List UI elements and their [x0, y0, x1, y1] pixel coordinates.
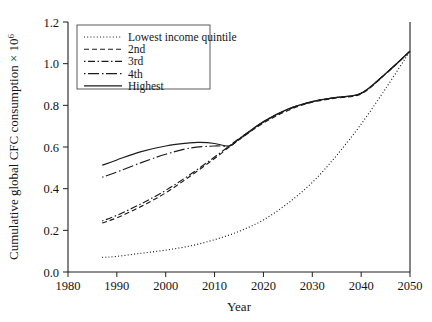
x-tick-label: 2040 [349, 279, 374, 293]
y-axis-label: Cumulative global CFC consumption × 106 [6, 34, 22, 260]
x-tick-label: 2050 [398, 279, 423, 293]
chart-background [0, 0, 432, 322]
x-axis-label: Year [227, 299, 252, 314]
x-tick-label: 2000 [153, 279, 178, 293]
y-tick-label: 0.4 [43, 182, 59, 196]
y-tick-label: 0.0 [43, 266, 59, 280]
cfc-consumption-line-chart: 0.00.20.40.60.81.01.2 198019902000201020… [0, 0, 432, 322]
x-tick-label: 1990 [104, 279, 129, 293]
y-tick-label: 0.6 [43, 141, 59, 155]
y-tick-label: 0.2 [43, 224, 59, 238]
legend-label: Highest [128, 80, 165, 93]
x-tick-label: 2030 [300, 279, 325, 293]
y-tick-label: 0.8 [43, 99, 59, 113]
legend-label: 3rd [128, 55, 144, 67]
y-tick-label: 1.0 [43, 57, 59, 71]
legend-label: 2nd [128, 43, 146, 55]
legend-label: 4th [128, 68, 143, 80]
x-tick-label: 2010 [202, 279, 227, 293]
x-tick-label: 1980 [56, 279, 81, 293]
legend-label: Lowest income quintile [128, 31, 237, 44]
y-tick-label: 1.2 [43, 16, 59, 30]
chart-figure: 0.00.20.40.60.81.01.2 198019902000201020… [0, 0, 432, 322]
x-tick-label: 2020 [251, 279, 276, 293]
